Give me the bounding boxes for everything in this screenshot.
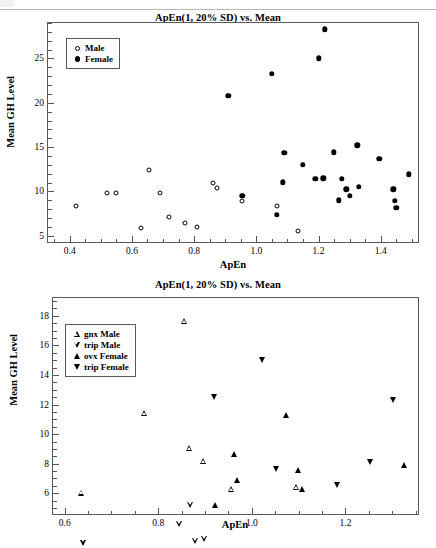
y-axis-major-tick	[53, 316, 59, 317]
data-point-triangle-down-open-icon	[80, 540, 86, 546]
panel-b-title: ApEn(1, 20% SD) vs. Mean	[0, 279, 436, 290]
x-axis-major-tick	[256, 236, 257, 242]
y-axis-minor-tick	[48, 50, 52, 51]
legend-item-male: Male	[71, 43, 113, 53]
y-axis-tick-label: 10	[40, 429, 50, 439]
x-axis-minor-tick	[101, 239, 102, 243]
y-axis-major-tick	[53, 434, 59, 435]
data-point-triangle-up-filled-icon	[283, 412, 289, 418]
data-point-circle-filled-icon	[406, 171, 411, 176]
x-axis-tick-label: 1.2	[313, 246, 325, 256]
x-axis-minor-tick	[412, 239, 413, 243]
y-axis-minor-tick	[53, 478, 57, 479]
x-axis-minor-tick	[287, 239, 288, 243]
x-axis-minor-tick	[369, 511, 370, 515]
x-axis-major-tick	[70, 236, 71, 242]
y-axis-minor-tick	[53, 449, 57, 450]
data-point-triangle-down-filled-icon	[211, 394, 217, 400]
legend-item-gnx-male: gnx Male	[70, 329, 129, 339]
y-axis-minor-tick	[48, 174, 52, 175]
x-axis-minor-tick	[416, 511, 417, 515]
data-point-triangle-down-filled-icon	[367, 459, 373, 465]
y-axis-minor-tick	[48, 121, 52, 122]
data-point-triangle-down-open-icon	[187, 502, 193, 508]
x-axis-minor-tick	[303, 239, 304, 243]
data-point-circle-filled-icon	[313, 176, 318, 181]
x-axis-tick-label: 0.6	[126, 246, 138, 256]
data-point-triangle-up-filled-icon	[212, 502, 218, 508]
panel-a-legend: Male Female	[66, 38, 120, 69]
data-point-triangle-up-open-icon	[141, 410, 147, 416]
y-axis-tick-label: 20	[35, 98, 45, 108]
data-point-circle-filled-icon	[355, 143, 360, 148]
y-axis-minor-tick	[53, 456, 57, 457]
x-axis-minor-tick	[147, 239, 148, 243]
x-axis-minor-tick	[85, 239, 86, 243]
y-axis-minor-tick	[48, 165, 52, 166]
y-axis-major-tick	[48, 58, 54, 59]
legend-item-trip-female: trip Female	[70, 362, 129, 372]
data-point-circle-filled-icon	[282, 150, 287, 155]
x-axis-minor-tick	[350, 239, 351, 243]
data-point-circle-open-icon	[274, 204, 279, 209]
y-axis-tick-label: 8	[44, 459, 49, 469]
y-axis-minor-tick	[53, 412, 57, 413]
x-axis-minor-tick	[54, 239, 55, 243]
legend-label-trip-female: trip Female	[83, 362, 129, 372]
panel-b: ApEn(1, 20% SD) vs. Mean Mean GH Level A…	[0, 274, 436, 548]
data-point-circle-open-icon	[157, 191, 162, 196]
legend-label-gnx-male: gnx Male	[83, 329, 120, 339]
data-point-circle-filled-icon	[392, 198, 397, 203]
x-axis-minor-tick	[228, 511, 229, 515]
y-axis-tick-label: 14	[40, 370, 50, 380]
x-axis-minor-tick	[322, 511, 323, 515]
data-point-circle-open-icon	[105, 190, 110, 195]
y-axis-minor-tick	[48, 94, 52, 95]
panel-b-legend: gnx Male trip Male ovx Female trip Femal…	[65, 324, 136, 377]
x-axis-tick-label: 0.4	[64, 246, 76, 256]
x-axis-minor-tick	[111, 511, 112, 515]
y-axis-minor-tick	[53, 338, 57, 339]
y-axis-minor-tick	[53, 442, 57, 443]
x-axis-minor-tick	[365, 239, 366, 243]
data-point-triangle-up-filled-icon	[401, 462, 407, 468]
legend-item-trip-male: trip Male	[70, 340, 129, 350]
circle-filled-icon	[71, 56, 84, 61]
y-axis-minor-tick	[53, 353, 57, 354]
data-point-circle-open-icon	[195, 224, 200, 229]
data-point-circle-open-icon	[139, 226, 144, 231]
y-axis-minor-tick	[53, 486, 57, 487]
x-axis-major-tick	[65, 508, 66, 514]
y-axis-tick-label: 18	[40, 311, 50, 321]
y-axis-tick-label: 5	[39, 231, 44, 241]
x-axis-minor-tick	[241, 239, 242, 243]
panel-a: ApEn(1, 20% SD) vs. Mean Mean GH Level A…	[0, 0, 436, 274]
y-axis-major-tick	[48, 147, 54, 148]
y-axis-minor-tick	[53, 301, 57, 302]
data-point-circle-filled-icon	[339, 176, 344, 181]
y-axis-minor-tick	[48, 41, 52, 42]
y-axis-tick-label: 15	[35, 142, 45, 152]
x-axis-minor-tick	[396, 239, 397, 243]
data-point-circle-filled-icon	[322, 27, 327, 32]
legend-item-ovx-female: ovx Female	[70, 351, 129, 361]
triangle-down-filled-icon	[70, 364, 83, 370]
data-point-triangle-up-open-icon	[78, 490, 84, 496]
triangle-up-filled-icon	[70, 353, 83, 359]
y-axis-tick-label: 10	[35, 186, 45, 196]
x-axis-minor-tick	[334, 239, 335, 243]
data-point-circle-open-icon	[182, 221, 187, 226]
y-axis-minor-tick	[48, 76, 52, 77]
y-axis-minor-tick	[53, 508, 57, 509]
x-axis-minor-tick	[392, 511, 393, 515]
data-point-circle-filled-icon	[300, 162, 305, 167]
x-axis-tick-label: 1.4	[375, 246, 387, 256]
data-point-circle-filled-icon	[376, 156, 381, 161]
panel-b-y-axis-title: Mean GH Level	[8, 334, 19, 406]
data-point-circle-open-icon	[296, 228, 301, 233]
x-axis-major-tick	[252, 508, 253, 514]
y-axis-minor-tick	[48, 23, 52, 24]
x-axis-major-tick	[345, 508, 346, 514]
triangle-down-open-icon	[70, 342, 83, 348]
x-axis-minor-tick	[275, 511, 276, 515]
